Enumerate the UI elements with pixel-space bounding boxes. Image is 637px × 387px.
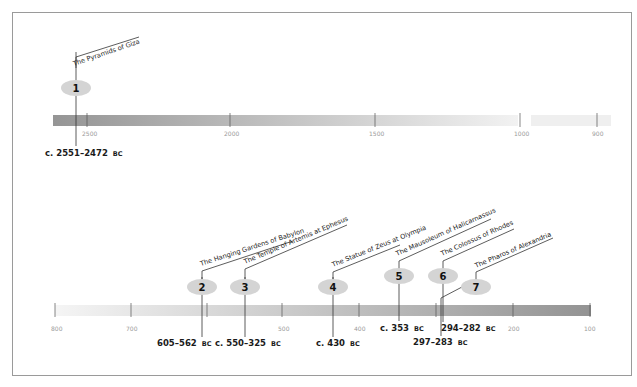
timeline-diagram: 2500 2000 1500 1000 900 1 The Pyramids o… — [0, 0, 637, 387]
svg-text:900: 900 — [592, 130, 604, 137]
svg-text:200: 200 — [508, 325, 520, 332]
marker-3-number: 3 — [242, 282, 249, 293]
svg-text:1500: 1500 — [369, 130, 384, 137]
svg-text:400: 400 — [354, 325, 366, 332]
svg-text:2500: 2500 — [82, 130, 97, 137]
marker-5-number: 5 — [396, 271, 403, 282]
marker-6-number: 6 — [440, 271, 447, 282]
marker-2-number: 2 — [199, 282, 206, 293]
svg-text:100: 100 — [584, 325, 596, 332]
wonder-5-date: c. 353 BC — [380, 323, 424, 333]
svg-text:500: 500 — [278, 325, 290, 332]
marker-1-number: 1 — [73, 83, 80, 94]
top-timeline-bar-continuation — [531, 115, 611, 126]
marker-4-number: 4 — [330, 282, 337, 293]
wonder-6-date: 294–282 BC — [441, 323, 496, 333]
wonder-1-name: The Pyramids of Giza — [71, 38, 141, 69]
bottom-timeline: 800 700 500 400 200 100 — [51, 206, 596, 348]
wonder-3-date: c. 550–325 BC — [215, 338, 281, 348]
bottom-timeline-bar — [55, 305, 591, 316]
wonder-1-date: c. 2551–2472 BC — [45, 148, 123, 158]
svg-text:1000: 1000 — [514, 130, 529, 137]
wonder-2-date: 605–562 BC — [157, 338, 212, 348]
top-timeline-bar — [53, 115, 518, 126]
top-timeline: 2500 2000 1500 1000 900 1 The Pyramids o… — [45, 37, 611, 158]
svg-text:800: 800 — [51, 325, 63, 332]
svg-text:700: 700 — [126, 325, 138, 332]
wonder-7-date: 297–283 BC — [413, 337, 468, 347]
wonder-4-date: c. 430 BC — [316, 338, 360, 348]
svg-text:2000: 2000 — [224, 130, 239, 137]
marker-7-number: 7 — [473, 282, 480, 293]
wonder-1-pyramids[interactable]: 1 The Pyramids of Giza c. 2551–2472 BC — [45, 37, 141, 158]
